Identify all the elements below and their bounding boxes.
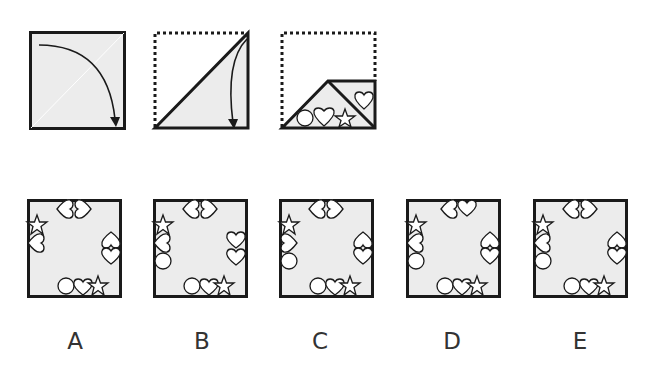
circle-icon	[535, 253, 551, 269]
option-d[interactable]	[406, 199, 502, 299]
circle-icon	[155, 253, 171, 269]
option-label-c: C	[300, 328, 340, 354]
circle-icon	[564, 278, 580, 294]
option-e[interactable]	[533, 199, 629, 299]
circle-icon	[184, 278, 200, 294]
fold-step-2	[153, 31, 251, 131]
circle-icon	[281, 253, 297, 269]
option-label-d: D	[432, 328, 472, 354]
circle-icon	[310, 278, 326, 294]
circle-icon	[58, 278, 74, 294]
option-c[interactable]	[279, 199, 375, 299]
fold-step-3	[280, 31, 378, 131]
option-a[interactable]	[27, 199, 123, 299]
option-b[interactable]	[153, 199, 249, 299]
option-label-e: E	[560, 328, 600, 354]
circle-icon	[437, 278, 453, 294]
circle-cutout-icon	[297, 110, 313, 126]
fold-step-1	[29, 31, 127, 131]
circle-icon	[408, 253, 424, 269]
option-label-b: B	[182, 328, 222, 354]
option-label-a: A	[55, 328, 95, 354]
